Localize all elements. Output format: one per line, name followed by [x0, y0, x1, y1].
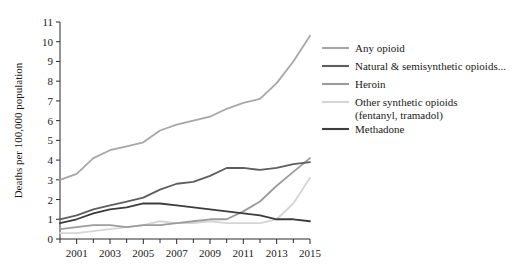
y-tick-label: 11 — [42, 16, 53, 28]
legend-label-3: Heroin — [355, 78, 386, 90]
y-tick-label: 9 — [48, 55, 54, 67]
y-tick-label: 0 — [48, 233, 54, 245]
x-tick-label: 2015 — [299, 247, 322, 259]
y-tick-label: 7 — [48, 95, 54, 107]
chart-container: 0123456789101120012003200520072009201120… — [0, 0, 515, 280]
x-tick-label: 2007 — [166, 247, 189, 259]
y-tick-label: 5 — [48, 134, 54, 146]
y-tick-label: 6 — [48, 115, 54, 127]
series-line-any-opioid — [60, 36, 310, 180]
x-tick-label: 2013 — [266, 247, 289, 259]
x-tick-label: 2009 — [199, 247, 222, 259]
y-tick-label: 8 — [48, 75, 54, 87]
x-tick-label: 2005 — [132, 247, 155, 259]
y-tick-label: 10 — [42, 36, 54, 48]
legend-label-2: Natural & semisynthetic opioids... — [355, 60, 506, 72]
x-tick-label: 2003 — [99, 247, 122, 259]
legend-label-4: Other synthetic opioids — [355, 96, 458, 108]
y-axis-title: Deaths per 100,000 population — [12, 62, 24, 198]
y-tick-label: 1 — [48, 213, 54, 225]
legend-label-5: Methadone — [355, 123, 405, 135]
legend-label-1: Any opioid — [355, 42, 405, 54]
legend-sublabel-4: (fentanyl, tramadol) — [355, 109, 443, 122]
line-chart: 0123456789101120012003200520072009201120… — [0, 0, 515, 280]
y-tick-label: 3 — [48, 174, 54, 186]
x-tick-label: 2011 — [233, 247, 255, 259]
x-tick-label: 2001 — [66, 247, 88, 259]
y-tick-label: 2 — [48, 194, 54, 206]
y-tick-label: 4 — [48, 154, 54, 166]
